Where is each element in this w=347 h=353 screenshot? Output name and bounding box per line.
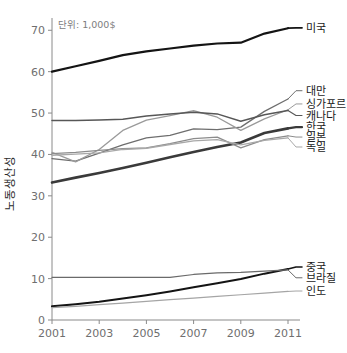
series-line-중국 [52,269,288,306]
series-label-인도: 인도 [306,285,326,298]
labor-productivity-chart: 010203040506070200120032005200720092011 … [0,0,347,353]
series-leader-일본 [288,136,302,137]
x-tick-label: 2003 [85,327,113,340]
x-tick-label: 2001 [38,327,66,340]
x-tick-label: 2011 [274,327,302,340]
series-label-group: 미국대만싱가포르캐나다한국일본독일중국브라질인도 [306,22,346,298]
series-leader-브라질 [288,270,302,278]
series-line-인도 [52,291,288,307]
y-tick-label: 30 [31,190,45,203]
series-line-독일 [52,138,288,155]
series-leader-중국 [288,267,302,269]
series-label-독일: 독일 [306,140,326,154]
y-tick-label: 50 [31,107,45,120]
y-tick-label: 0 [38,314,45,327]
y-tick-label: 40 [31,148,45,161]
x-tick-label: 2009 [227,327,255,340]
series-group [52,28,302,308]
series-label-미국: 미국 [306,22,326,35]
x-tick-label: 2007 [180,327,208,340]
chart-canvas: 010203040506070200120032005200720092011 … [0,0,347,353]
y-axis-title: 노동생산성 [3,156,17,211]
series-label-대만: 대만 [306,85,326,98]
y-tick-label: 20 [31,231,45,244]
series-leader-한국 [288,127,302,128]
series-leader-대만 [288,91,302,99]
unit-note: 단위: 1,000$ [58,19,115,30]
y-tick-label: 70 [31,24,45,37]
y-tick-label: 60 [31,66,45,79]
series-line-미국 [52,28,288,71]
series-leader-싱가포르 [288,104,302,110]
x-tick-label: 2005 [132,327,160,340]
series-label-브라질: 브라질 [306,272,336,285]
series-leader-독일 [288,138,302,147]
series-leader-캐나다 [288,111,302,116]
y-tick-label: 10 [31,273,45,286]
